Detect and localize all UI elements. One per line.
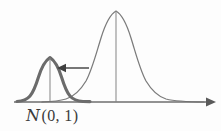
script-n-symbol: N	[26, 106, 41, 125]
normal-distribution-figure: N(0, 1)	[0, 0, 221, 131]
distribution-params: (0, 1)	[41, 107, 78, 124]
x-axis-arrowhead-icon	[206, 98, 216, 107]
distribution-label: N(0, 1)	[26, 106, 78, 125]
standard-normal-curve	[17, 58, 90, 102]
